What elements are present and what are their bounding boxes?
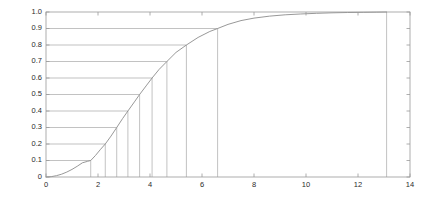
- y-axis-tick-label: 0.1: [32, 155, 42, 164]
- x-axis-tick-label: 14: [406, 180, 414, 189]
- y-axis-tick-label: 0.6: [32, 73, 42, 82]
- x-axis-tick-label: 10: [302, 180, 310, 189]
- x-axis-tick-label: 0: [44, 180, 48, 189]
- x-axis-tick-label: 4: [148, 180, 152, 189]
- y-axis-tick-label: 0.2: [32, 139, 42, 148]
- y-axis-tick-label: 0.4: [32, 106, 42, 115]
- quantile-lines-group: [46, 12, 387, 177]
- x-axis-tick-label: 12: [354, 180, 362, 189]
- plot-canvas: 00.10.20.30.40.50.60.70.80.91.0024681012…: [0, 0, 434, 206]
- y-axis-tick-label: 0.7: [32, 56, 42, 65]
- x-axis-tick-label: 8: [252, 180, 256, 189]
- x-axis-tick-label: 2: [96, 180, 100, 189]
- y-axis-tick-label: 0.5: [32, 89, 42, 98]
- y-axis-tick-label: 1.0: [32, 7, 42, 16]
- cdf-quantile-chart: 00.10.20.30.40.50.60.70.80.91.0024681012…: [0, 0, 434, 206]
- y-axis-tick-label: 0: [38, 172, 42, 181]
- y-axis-tick-label: 0.8: [32, 40, 42, 49]
- y-axis-tick-label: 0.9: [32, 23, 42, 32]
- y-axis-tick-label: 0.3: [32, 122, 42, 131]
- x-axis-tick-label: 6: [200, 180, 204, 189]
